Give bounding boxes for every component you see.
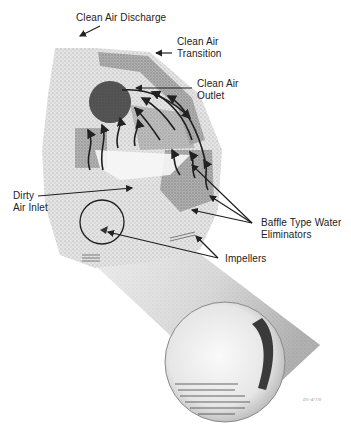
- label-clean-air-outlet-line2: Outlet: [197, 90, 238, 102]
- label-baffle-water-eliminators: Baffle Type Water Eliminators: [261, 217, 341, 241]
- inlet-end-disc: [165, 302, 285, 422]
- label-clean-air-outlet: Clean Air Outlet: [197, 78, 238, 102]
- label-clean-air-outlet-line1: Clean Air: [197, 78, 238, 90]
- scrubber-housing: [42, 48, 222, 268]
- label-clean-air-transition-line2: Transition: [177, 48, 222, 60]
- label-baffle-line2: Eliminators: [261, 229, 341, 241]
- label-dirty-air-inlet-line2: Air Inlet: [13, 202, 48, 214]
- drawing-stamp: D1-4/7/0: [303, 397, 321, 402]
- label-baffle-line1: Baffle Type Water: [261, 217, 341, 229]
- label-impellers: Impellers: [225, 253, 266, 265]
- label-clean-air-transition-line1: Clean Air: [177, 36, 222, 48]
- label-dirty-air-inlet-line1: Dirty: [13, 190, 48, 202]
- label-clean-air-transition: Clean Air Transition: [177, 36, 222, 60]
- label-dirty-air-inlet: Dirty Air Inlet: [13, 190, 48, 214]
- label-clean-air-discharge: Clean Air Discharge: [76, 12, 166, 24]
